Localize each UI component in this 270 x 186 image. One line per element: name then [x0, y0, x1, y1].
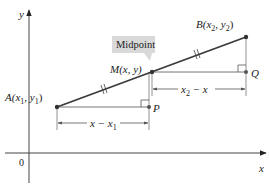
origin-label: 0: [19, 157, 24, 168]
midpoint-callout-label: Midpoint: [116, 39, 155, 50]
dimension-left-label: x − x1: [89, 117, 117, 132]
label-B: B(x2, y2): [196, 18, 234, 33]
point-Q: [244, 70, 248, 74]
label-P: P: [152, 102, 160, 114]
point-B: [244, 35, 248, 39]
dimension-right-label: x2 − x: [180, 83, 208, 98]
label-A: A(x1, y1): [4, 91, 43, 106]
point-A: [55, 105, 59, 109]
label-M: M(x, y): [109, 63, 142, 76]
midpoint-diagram: y x 0: [0, 0, 270, 186]
y-axis-label: y: [18, 8, 24, 20]
x-axis-label: x: [258, 162, 264, 174]
point-M: [150, 70, 154, 74]
point-P: [147, 105, 151, 109]
label-Q: Q: [251, 67, 259, 79]
midpoint-callout: Midpoint: [112, 36, 155, 61]
